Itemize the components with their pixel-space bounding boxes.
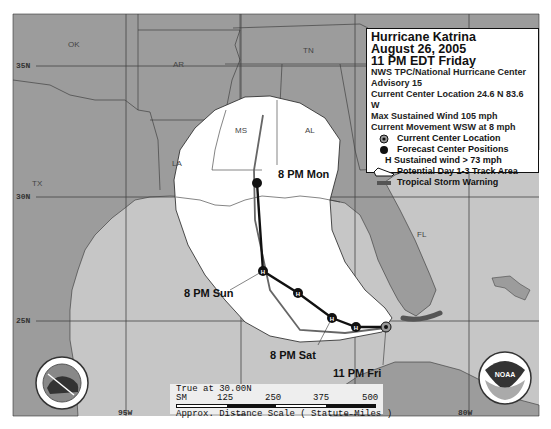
state-label-tn: TN bbox=[303, 46, 314, 55]
svg-text:H: H bbox=[330, 316, 334, 322]
legend-box: Hurricane Katrina August 26, 2005 11 PM … bbox=[366, 28, 539, 173]
state-label-al: AL bbox=[305, 126, 315, 135]
legend-label: Forecast Center Positions bbox=[397, 144, 509, 155]
center-location: Current Center Location 24.6 N 83.6 W bbox=[371, 89, 534, 111]
storm-warning-icon bbox=[371, 179, 397, 187]
scale-caption: Approx. Distance Scale ( Statute Miles ) bbox=[176, 410, 392, 419]
noaa-logo: NOAA bbox=[479, 352, 531, 404]
time-label-sun: 8 PM Sun bbox=[184, 287, 234, 299]
latitude-label: 30N bbox=[16, 192, 30, 201]
agency-name: NWS TPC/National Hurricane Center bbox=[371, 67, 534, 78]
latitude-label: 25N bbox=[16, 316, 30, 325]
scale-tick: 500 bbox=[362, 394, 378, 403]
time-label-fri: 11 PM Fri bbox=[333, 367, 381, 379]
svg-text:H: H bbox=[296, 291, 300, 297]
longitude-label: 80W bbox=[458, 408, 472, 417]
legend-label: Potential Day 1-3 Track Area bbox=[397, 166, 518, 177]
state-label-ar: AR bbox=[173, 60, 184, 69]
legend-item: Potential Day 1-3 Track Area bbox=[371, 166, 534, 177]
legend-label: Current Center Location bbox=[397, 133, 501, 144]
scale-true-at: True at 30.00N bbox=[176, 385, 252, 394]
legend-item: Current Center Location bbox=[371, 133, 534, 144]
legend-label: Tropical Storm Warning bbox=[397, 177, 498, 188]
longitude-label: 95W bbox=[118, 408, 132, 417]
advisory-number: Advisory 15 bbox=[371, 78, 534, 89]
legend-label: H Sustained wind > 73 mph bbox=[385, 155, 502, 166]
legend-item: Forecast Center Positions bbox=[371, 144, 534, 155]
scale-tick: 125 bbox=[217, 394, 233, 403]
svg-text:H: H bbox=[354, 325, 358, 331]
current-center-marker bbox=[381, 322, 391, 332]
nws-logo bbox=[36, 357, 88, 409]
svg-text:NOAA: NOAA bbox=[495, 371, 516, 378]
latitude-label: 35N bbox=[16, 61, 30, 70]
svg-text:H: H bbox=[261, 269, 265, 275]
forecast-position-icon bbox=[371, 145, 397, 155]
max-wind: Max Sustained Wind 105 mph bbox=[371, 111, 534, 122]
state-label-ms: MS bbox=[235, 126, 247, 135]
current-center-icon bbox=[371, 134, 397, 144]
state-label-ok: OK bbox=[68, 40, 80, 49]
track-area-icon bbox=[371, 167, 397, 177]
time-label-sat: 8 PM Sat bbox=[270, 349, 316, 361]
legend-item: Tropical Storm Warning bbox=[371, 177, 534, 188]
distance-scale: True at 30.00N SM 125 250 375 500 Approx… bbox=[170, 384, 383, 414]
scale-bar bbox=[176, 404, 376, 408]
advisory-time: 11 PM EDT Friday bbox=[371, 55, 534, 67]
time-label-mon: 8 PM Mon bbox=[278, 168, 329, 180]
scale-tick: 375 bbox=[313, 394, 329, 403]
current-movement: Current Movement WSW at 8 mph bbox=[371, 122, 534, 133]
state-label-fl: FL bbox=[417, 230, 426, 239]
scale-tick: 250 bbox=[265, 394, 281, 403]
legend-item: H Sustained wind > 73 mph bbox=[371, 155, 534, 166]
state-label-la: LA bbox=[172, 159, 182, 168]
scale-unit: SM bbox=[176, 394, 187, 403]
state-label-tx: TX bbox=[32, 179, 42, 188]
